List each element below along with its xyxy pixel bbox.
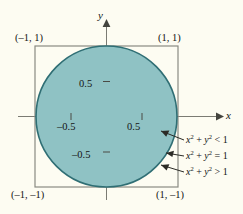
corner-label-bottom-left: (–1, –1) bbox=[11, 190, 44, 201]
x-axis-tick-label-negative: –0.5 bbox=[57, 122, 75, 133]
region-label-exterior: x2 + y2 > 1 bbox=[186, 167, 228, 177]
region-exterior-operator: > bbox=[212, 166, 223, 177]
region-interior-value: 1 bbox=[223, 134, 228, 145]
y-axis-tick-label-positive: 0.5 bbox=[79, 79, 92, 90]
region-boundary-plus: + bbox=[194, 150, 205, 161]
y-axis-arrowhead bbox=[103, 19, 111, 27]
corner-label-top-right: (1, 1) bbox=[158, 33, 181, 44]
corner-label-top-left: (–1, 1) bbox=[15, 33, 43, 44]
region-exterior-value: 1 bbox=[223, 166, 228, 177]
unit-disk-diagram: (–1, 1) (1, 1) (–1, –1) (1, –1) –0.5 0.5… bbox=[0, 0, 243, 214]
x-axis-label: x bbox=[226, 110, 231, 121]
x-axis-tick-label-positive: 0.5 bbox=[127, 122, 140, 133]
leader-arrow-boundary bbox=[166, 151, 184, 157]
y-axis-label: y bbox=[98, 10, 103, 21]
region-boundary-operator: = bbox=[212, 150, 223, 161]
region-label-interior: x2 + y2 < 1 bbox=[186, 135, 228, 145]
region-label-boundary: x2 + y2 = 1 bbox=[186, 151, 228, 161]
region-interior-plus: + bbox=[194, 134, 205, 145]
unit-disk bbox=[36, 46, 177, 187]
region-exterior-plus: + bbox=[194, 166, 205, 177]
region-boundary-value: 1 bbox=[223, 150, 228, 161]
leader-arrow-exterior bbox=[161, 164, 184, 172]
x-axis-arrowhead bbox=[216, 113, 224, 121]
y-axis-tick-label-negative: –0.5 bbox=[72, 150, 90, 161]
corner-label-bottom-right: (1, –1) bbox=[156, 190, 184, 201]
region-interior-operator: < bbox=[212, 134, 223, 145]
